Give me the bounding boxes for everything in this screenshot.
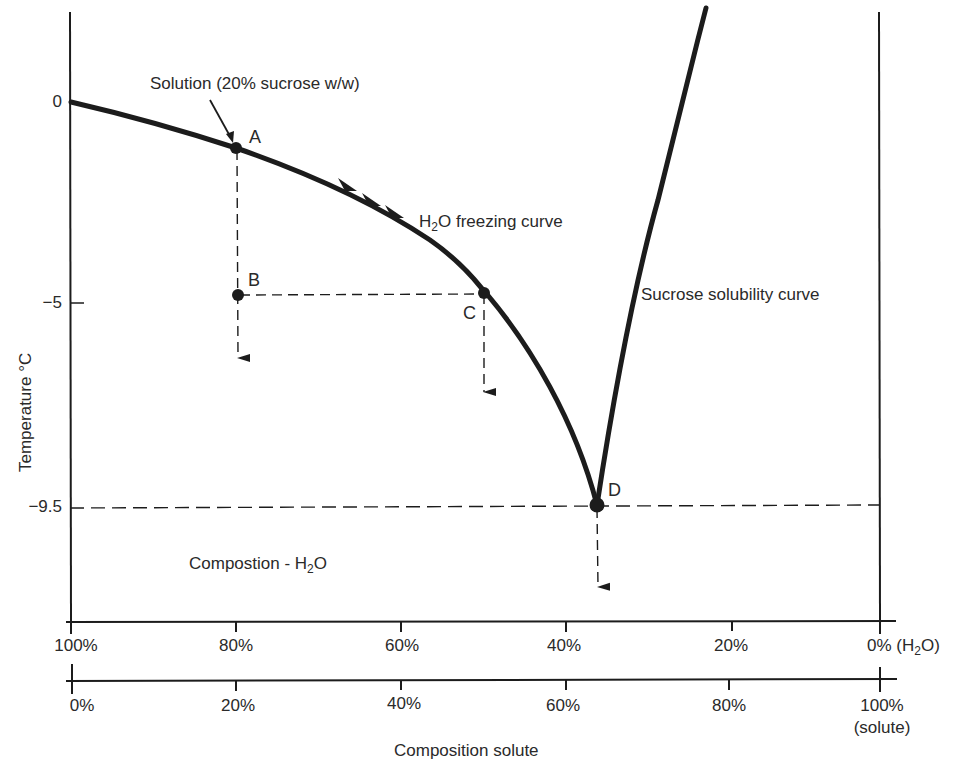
eutectic-reference-line: [70, 505, 880, 508]
solution-annotation-arrow: [210, 100, 231, 138]
sucrose-solubility-curve: [597, 8, 706, 505]
point-a-label: A: [249, 127, 261, 148]
x-axis-title: Composition solute: [394, 741, 539, 761]
point-c-label: C: [463, 303, 476, 324]
bottom-tick-0: 0%: [70, 696, 95, 716]
y-tick-label-0: 0: [12, 92, 62, 112]
solubility-curve-label: Sucrose solubility curve: [641, 285, 820, 305]
top-tick-20: 20%: [714, 636, 748, 656]
top-tick-80: 80%: [219, 636, 253, 656]
point-b-label: B: [248, 270, 260, 291]
freezing-curve-label: H2O freezing curve: [419, 212, 563, 234]
point-a-marker: [230, 142, 242, 154]
top-tick-40: 40%: [547, 636, 581, 656]
y-tick-label-minus9-5: −9.5: [12, 497, 62, 517]
point-c-marker: [478, 287, 490, 299]
cooling-direction-arrows-icon: [338, 178, 404, 218]
b-to-c-dashed: [240, 294, 484, 295]
bottom-tick-40: 40%: [387, 694, 421, 714]
bottom-tick-100: 100%: [860, 696, 903, 716]
point-d-label: D: [608, 480, 621, 501]
right-axis: [879, 12, 880, 622]
solution-annotation: Solution (20% sucrose w/w): [150, 74, 360, 94]
point-b-marker: [232, 289, 244, 301]
top-tick-100: 100%: [54, 636, 97, 656]
top-tick-60: 60%: [385, 636, 419, 656]
top-tick-0-h2o: 0% (H2O): [867, 636, 940, 658]
bottom-tick-20: 20%: [221, 696, 255, 716]
h2o-freezing-curve: [71, 102, 597, 505]
y-axis-title: Temperature °C: [16, 353, 36, 472]
bottom-x-axis: [66, 679, 897, 681]
a-to-b-dashed: [237, 150, 238, 358]
composition-h2o-label: Compostion - H2O: [189, 554, 327, 576]
bottom-tick-solute-suffix: (solute): [854, 718, 911, 738]
y-tick-label-minus5: −5: [12, 293, 62, 313]
top-x-axis: [66, 621, 896, 622]
bottom-tick-60: 60%: [546, 696, 580, 716]
top-x-ticks: [71, 621, 880, 634]
phase-diagram-plot: [0, 0, 961, 779]
point-d-marker: [590, 498, 605, 513]
bottom-tick-80: 80%: [712, 696, 746, 716]
d-down-dashed: [597, 508, 598, 587]
